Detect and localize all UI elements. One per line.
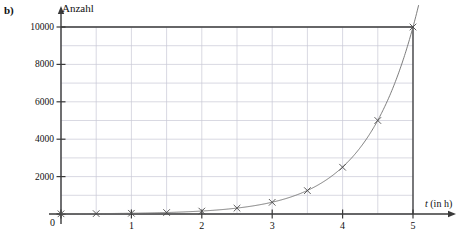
x-axis-title: t (in h) (425, 198, 452, 209)
part-label: b) (4, 4, 14, 16)
y-tick-label: 8000 (16, 59, 54, 69)
x-axis-unit: (in h) (430, 198, 452, 209)
x-tick-label: 1 (129, 220, 134, 231)
x-tick-label: 3 (270, 220, 275, 231)
y-tick-label: 6000 (16, 97, 54, 107)
axis-ticks (57, 27, 414, 219)
plot-area (0, 0, 460, 245)
y-tick-label: 4000 (16, 134, 54, 144)
axes (49, 6, 456, 224)
y-axis-title: Anzahl (62, 2, 94, 14)
y-tick-label: 10000 (16, 22, 54, 32)
x-tick-label: 4 (340, 220, 345, 231)
x-axis-variable: t (425, 198, 428, 209)
data-curve (61, 5, 419, 214)
figure-panel: b) Anzahl t (in h) 0 2000400060008000100… (0, 0, 460, 245)
y-tick-label: 2000 (16, 172, 54, 182)
x-tick-label: 2 (199, 220, 204, 231)
origin-label: 0 (50, 217, 55, 228)
x-tick-label: 5 (411, 220, 416, 231)
